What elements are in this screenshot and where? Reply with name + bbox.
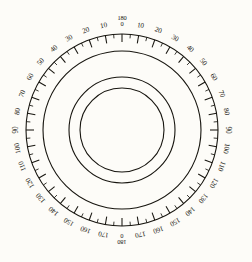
graduation-label-text: 90: [224, 127, 232, 134]
figure-background: [0, 0, 252, 262]
graduation-label-lower: 0: [121, 233, 124, 240]
graduation-label-text: 90: [12, 126, 20, 133]
graduation-label: 90: [12, 126, 20, 133]
protractor-dial-figure: 1800180010203040506070809010011012013014…: [0, 0, 252, 262]
graduation-label-lower: 0: [121, 20, 124, 27]
graduation-label: 90: [224, 127, 232, 134]
protractor-dial-svg: 1800180010203040506070809010011012013014…: [0, 0, 252, 262]
